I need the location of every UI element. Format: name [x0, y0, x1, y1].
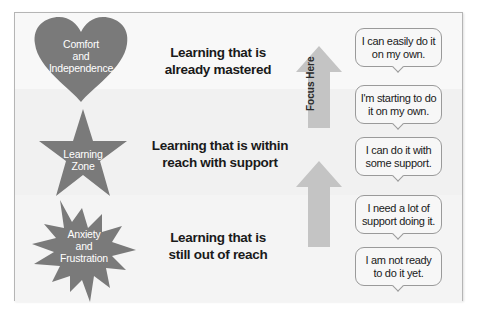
bubble-starting-on-own: I'm starting to do it on my own. [355, 85, 442, 124]
heart-label-line-1: Comfort [32, 38, 130, 50]
starburst-label-line-3: Frustration [30, 252, 138, 264]
description-out-of-reach: Learning that is still out of reach [148, 229, 288, 263]
star-label-line-2: Zone [38, 160, 128, 172]
starburst-shape: Anxiety and Frustration [30, 200, 138, 304]
starburst-label-line-2: and [30, 240, 138, 252]
star-shape: Learning Zone [38, 108, 128, 198]
bubble-not-ready: I am not ready to do it yet. [355, 247, 442, 286]
heart-label-line-2: and [32, 50, 130, 62]
bubble-some-support: I can do it with some support. [355, 137, 442, 176]
description-mastered: Learning that is already mastered [148, 44, 288, 78]
description-learning-zone: Learning that is within reach with suppo… [140, 137, 300, 171]
progress-arrow [296, 161, 342, 247]
starburst-label-line-1: Anxiety [30, 228, 138, 240]
up-arrow-icon [296, 161, 342, 247]
star-label-line-1: Learning [38, 148, 128, 160]
up-arrow-icon [296, 46, 342, 128]
heart-label-line-3: Independence [32, 62, 130, 74]
focus-arrow [296, 46, 342, 128]
focus-here-label: Focus Here [305, 59, 319, 111]
bubble-lot-of-support: I need a lot of support doing it. [355, 195, 442, 234]
heart-shape: Comfort and Independence [32, 16, 130, 104]
bubble-easily-on-own: I can easily do it on my own. [355, 28, 442, 67]
